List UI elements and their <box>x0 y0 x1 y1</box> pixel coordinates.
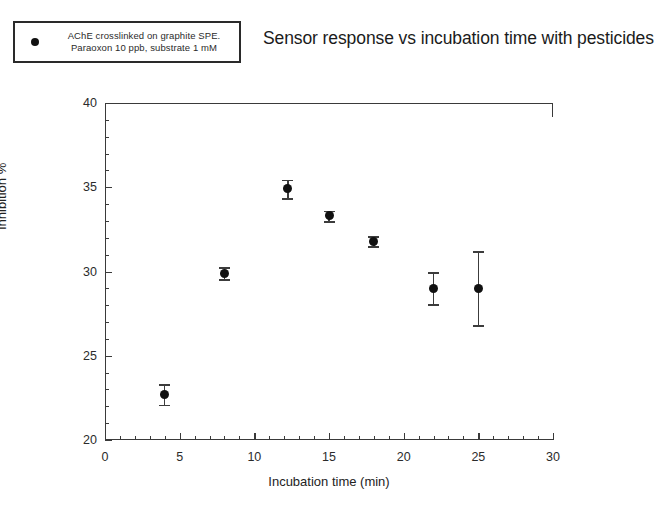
legend-text: AChE crosslinked on graphite SPE. Paraox… <box>55 30 239 54</box>
plot-area <box>105 103 553 440</box>
error-bar-cap-top <box>282 180 293 182</box>
legend-marker-cell <box>15 38 55 46</box>
y-axis-minor-tick <box>105 288 109 289</box>
x-axis-minor-tick <box>195 436 196 440</box>
y-axis-major-tick <box>105 187 112 188</box>
x-axis-minor-tick <box>299 436 300 440</box>
x-axis-minor-tick <box>508 436 509 440</box>
plot-frame <box>105 103 553 440</box>
y-axis-tick-label: 40 <box>71 96 97 110</box>
y-axis-major-tick <box>105 272 112 273</box>
plot-frame-right-stub <box>552 103 554 117</box>
y-axis-minor-tick <box>105 170 109 171</box>
error-bar-cap-bottom <box>368 246 379 248</box>
y-axis-minor-tick <box>105 339 109 340</box>
legend-line-2: Paraoxon 10 ppb, substrate 1 mM <box>55 42 233 54</box>
error-bar-cap-bottom <box>324 221 335 223</box>
y-axis-minor-tick <box>105 373 109 374</box>
y-axis-minor-tick <box>105 322 109 323</box>
x-axis-minor-tick <box>135 436 136 440</box>
y-axis-major-tick <box>105 103 112 104</box>
error-bar-cap-top <box>159 384 170 386</box>
x-axis-minor-tick <box>419 436 420 440</box>
y-axis-tick-label: 25 <box>71 349 97 363</box>
x-axis-tick-label: 15 <box>322 450 336 464</box>
filled-circle-marker-icon <box>429 284 438 293</box>
legend-box: AChE crosslinked on graphite SPE. Paraox… <box>13 21 241 63</box>
x-axis-tick-label: 20 <box>397 450 411 464</box>
x-axis-minor-tick <box>224 436 225 440</box>
y-axis-minor-tick <box>105 137 109 138</box>
y-axis-minor-tick <box>105 305 109 306</box>
x-axis-minor-tick <box>314 436 315 440</box>
legend-line-1: AChE crosslinked on graphite SPE. <box>55 30 233 42</box>
x-axis-major-tick <box>329 433 330 440</box>
x-axis-major-tick <box>404 433 405 440</box>
x-axis-major-tick <box>478 433 479 440</box>
x-axis-title: Incubation time (min) <box>105 474 553 489</box>
x-axis-tick-label: 25 <box>471 450 485 464</box>
y-axis-minor-tick <box>105 221 109 222</box>
x-axis-minor-tick <box>523 436 524 440</box>
x-axis-minor-tick <box>150 436 151 440</box>
y-axis-title: Inhibition % <box>0 163 9 230</box>
x-axis-tick-label: 30 <box>546 450 560 464</box>
x-axis-minor-tick <box>344 436 345 440</box>
filled-circle-marker-icon <box>474 284 483 293</box>
y-axis-tick-label: 20 <box>71 433 97 447</box>
x-axis-minor-tick <box>448 436 449 440</box>
error-bar-cap-bottom <box>428 304 439 306</box>
error-bar-cap-bottom <box>219 279 230 281</box>
error-bar-cap-bottom <box>159 405 170 407</box>
x-axis-major-tick <box>105 433 106 440</box>
y-axis-minor-tick <box>105 238 109 239</box>
filled-circle-marker-icon <box>369 237 378 246</box>
x-axis-minor-tick <box>434 436 435 440</box>
chart-title: Sensor response vs incubation time with … <box>263 28 654 49</box>
x-axis-major-tick <box>180 433 181 440</box>
x-axis-minor-tick <box>463 436 464 440</box>
y-axis-tick-label: 35 <box>71 180 97 194</box>
y-axis-major-tick <box>105 440 112 441</box>
y-axis-minor-tick <box>105 423 109 424</box>
error-bar-cap-top <box>428 272 439 274</box>
filled-circle-marker-icon <box>220 269 229 278</box>
x-axis-minor-tick <box>210 436 211 440</box>
x-axis-tick-label: 0 <box>102 450 109 464</box>
y-axis-tick-label: 30 <box>71 265 97 279</box>
y-axis-minor-tick <box>105 120 109 121</box>
x-axis-tick-label: 5 <box>176 450 183 464</box>
x-axis-minor-tick <box>374 436 375 440</box>
x-axis-minor-tick <box>284 436 285 440</box>
y-axis-minor-tick <box>105 204 109 205</box>
x-axis-minor-tick <box>493 436 494 440</box>
filled-circle-marker-icon <box>325 211 334 220</box>
y-axis-minor-tick <box>105 255 109 256</box>
y-axis-minor-tick <box>105 154 109 155</box>
y-axis-major-tick <box>105 356 112 357</box>
x-axis-minor-tick <box>359 436 360 440</box>
error-bar-cap-top <box>473 251 484 253</box>
x-axis-minor-tick <box>120 436 121 440</box>
x-axis-major-tick <box>553 433 554 440</box>
error-bar-cap-bottom <box>282 198 293 200</box>
y-axis-minor-tick <box>105 406 109 407</box>
y-axis-minor-tick <box>105 389 109 390</box>
x-axis-minor-tick <box>269 436 270 440</box>
x-axis-minor-tick <box>389 436 390 440</box>
x-axis-tick-label: 10 <box>247 450 261 464</box>
x-axis-major-tick <box>254 433 255 440</box>
error-bar-cap-bottom <box>473 325 484 327</box>
filled-circle-marker-icon <box>31 38 39 46</box>
x-axis-minor-tick <box>239 436 240 440</box>
x-axis-minor-tick <box>165 436 166 440</box>
x-axis-minor-tick <box>538 436 539 440</box>
